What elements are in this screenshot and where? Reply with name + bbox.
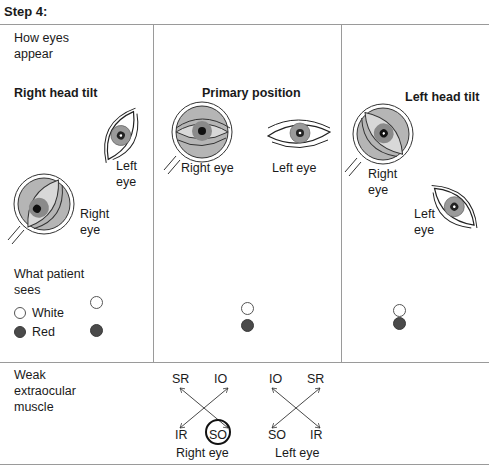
row-label-what-patient-sees: What patient sees	[14, 266, 84, 298]
row-label-line: Weak	[14, 367, 76, 383]
weak-muscle-highlight-circle	[205, 419, 231, 445]
divider-middle	[0, 362, 489, 363]
divider-top	[0, 24, 489, 25]
image-white-right-tilt	[90, 296, 103, 309]
row-label-weak-extraocular-muscle: Weak extraocular muscle	[14, 367, 76, 415]
row-label-line: appear	[14, 46, 69, 62]
muscle-diagram-label-right-eye: Right eye	[176, 446, 229, 460]
label-right-tilt-left-eye: Left eye	[116, 158, 137, 190]
row-label-line: sees	[14, 282, 84, 298]
label-line: eye	[414, 222, 435, 238]
legend-red-label: Red	[32, 324, 55, 340]
eye-icon-primary-left-eye	[262, 112, 336, 152]
muscle-label-so-left: SO	[268, 428, 286, 442]
label-line: eye	[116, 174, 137, 190]
image-white-primary	[241, 302, 254, 315]
muscle-label-io-right: IO	[214, 372, 227, 386]
eye-icon-right-tilt-left-eye	[85, 105, 155, 165]
title-primary-position: Primary position	[202, 85, 301, 101]
divider-col-1	[153, 25, 154, 362]
title-right-head-tilt: Right head tilt	[14, 85, 97, 101]
label-primary-left-eye: Left eye	[272, 160, 316, 176]
muscle-diagram-label-left-eye: Left eye	[275, 446, 319, 460]
muscle-label-ir-right: IR	[175, 428, 188, 442]
row-label-line: What patient	[14, 266, 84, 282]
row-label-line: muscle	[14, 399, 76, 415]
label-line: Left	[414, 206, 435, 222]
label-line: eye	[80, 222, 109, 238]
row-label-line: How eyes	[14, 30, 69, 46]
row-label-how-eyes-appear: How eyes appear	[14, 30, 69, 62]
label-right-tilt-right-eye: Right eye	[80, 206, 109, 238]
image-white-left-tilt	[393, 304, 406, 317]
row-label-line: extraocular	[14, 383, 76, 399]
label-line: Left	[116, 158, 137, 174]
label-line: Right	[368, 166, 397, 182]
image-red-right-tilt	[90, 324, 103, 337]
magnifier-icon-right-tilt-right-eye	[6, 168, 86, 248]
legend-white-dot	[14, 307, 26, 319]
label-left-tilt-right-eye: Right eye	[368, 166, 397, 198]
label-primary-right-eye: Right eye	[181, 160, 234, 176]
muscle-label-sr-left: SR	[307, 372, 324, 386]
divider-col-2	[341, 25, 342, 362]
label-line: eye	[368, 182, 397, 198]
image-red-primary	[241, 319, 254, 332]
legend-red-dot	[14, 326, 26, 338]
muscle-label-ir-left: IR	[310, 428, 323, 442]
muscle-label-sr-right: SR	[172, 372, 189, 386]
divider-bottom	[0, 464, 489, 465]
label-line: Right	[80, 206, 109, 222]
muscle-arrows-icon-left-eye	[268, 386, 324, 430]
muscle-label-io-left: IO	[269, 372, 282, 386]
step-title: Step 4:	[4, 4, 47, 19]
legend-white-label: White	[32, 305, 64, 321]
image-red-left-tilt	[393, 317, 406, 330]
label-left-tilt-left-eye: Left eye	[414, 206, 435, 238]
